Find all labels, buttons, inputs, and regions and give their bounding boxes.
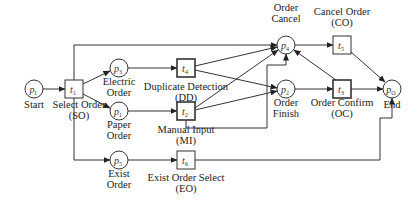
transition-label: (MI) (176, 135, 196, 147)
place-label: Order (107, 87, 132, 98)
arc-t5-pO (351, 52, 385, 82)
transition-label: Cancel Order (314, 6, 371, 17)
transition-t2: t2 (177, 102, 195, 120)
place-p2: p2 (277, 80, 295, 98)
arc-t1-p4 (74, 45, 277, 80)
place-p1: p1 (110, 102, 128, 120)
place-label: Paper (107, 119, 131, 130)
place-p4: p4 (277, 36, 295, 54)
transition-label: (CO) (331, 17, 353, 29)
place-label: Exist (108, 168, 130, 179)
place-label: Order (107, 179, 132, 190)
place-label: Order (274, 97, 299, 108)
arc-t2-p2 (195, 91, 277, 110)
transition-label: Duplicate Detection (144, 81, 229, 92)
transition-t5: t5 (333, 36, 351, 54)
transition-label: Select Order (53, 99, 106, 110)
transition-label: Order Confirm (311, 97, 374, 108)
place-label: End (384, 99, 402, 110)
transition-label: Exist Order Select (148, 172, 225, 183)
place-label: Finish (273, 108, 300, 119)
transition-t3: t3 (333, 80, 351, 98)
transition-label: (EO) (176, 183, 197, 195)
petri-net-diagram: pIp3p1p5p4p2pOt1t4t2t6t5t3 StartElectric… (0, 0, 417, 204)
place-label: Order (274, 2, 299, 13)
transition-t4: t4 (177, 59, 195, 77)
arc-t3-p4 (294, 50, 336, 80)
place-p5: p5 (110, 151, 128, 169)
transition-label: (DD) (175, 92, 198, 104)
place-pi: pI (25, 80, 43, 98)
transition-t1: t1 (65, 80, 83, 98)
arc-t4-p4 (195, 47, 277, 66)
transition-label: (SO) (69, 110, 90, 122)
transition-label: (OC) (331, 108, 353, 120)
place-label: Order (107, 130, 132, 141)
place-label: Start (24, 99, 44, 110)
transition-label: Manual Input (158, 124, 215, 135)
transition-t6: t6 (177, 151, 195, 169)
place-label: Cancel (271, 13, 300, 24)
place-po: pO (383, 80, 401, 98)
arc-t2-p4 (195, 50, 278, 108)
place-label: Electric (103, 76, 136, 87)
place-p3: p3 (110, 59, 128, 77)
